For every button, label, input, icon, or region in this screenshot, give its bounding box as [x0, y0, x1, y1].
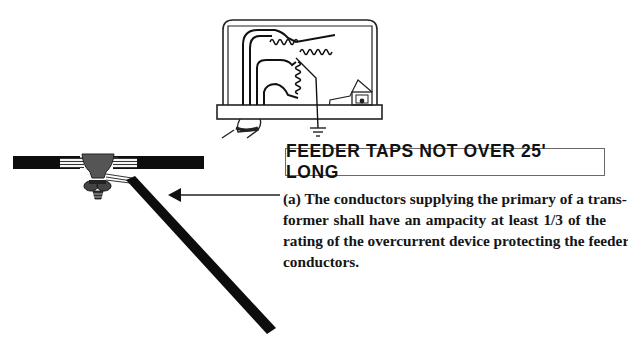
rule-line-1: (a) The conductors supplying the primary…	[283, 188, 606, 209]
ground-icon	[310, 128, 326, 136]
rule-line-3: rating of the overcurrent device protect…	[283, 230, 606, 251]
supply-cable	[222, 119, 261, 138]
transformer	[217, 20, 382, 119]
rule-line-2: former shall have an ampacity at least 1…	[283, 209, 606, 230]
rule-line-4: conductors.	[283, 251, 606, 272]
title-box: FEEDER TAPS NOT OVER 25' LONG	[285, 148, 605, 176]
arrow-left-icon	[168, 188, 280, 202]
page-title: FEEDER TAPS NOT OVER 25' LONG	[286, 141, 604, 183]
rule-paragraph: (a) The conductors supplying the primary…	[283, 188, 606, 272]
tap-conductor	[126, 176, 276, 334]
